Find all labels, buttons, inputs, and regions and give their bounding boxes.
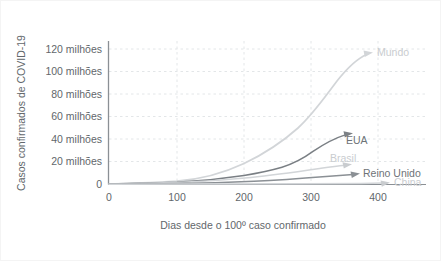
series-arrow-reino-unido	[351, 172, 361, 178]
series-label-mundo: Mundo	[377, 46, 409, 58]
series-arrow-china	[381, 180, 391, 186]
x-tick-label-300: 300	[302, 191, 320, 203]
y-tick-label-20: 20 milhões	[51, 155, 102, 167]
x-tick-label-0: 0	[106, 191, 112, 203]
y-tick-label-120: 120 milhões	[45, 43, 102, 55]
series-line-brasil	[109, 165, 345, 184]
series-label-china: China	[394, 176, 422, 188]
series-line-mundo	[109, 54, 367, 184]
series-label-eua: EUA	[346, 134, 368, 146]
x-tick-label-100: 100	[168, 191, 186, 203]
y-axis-title: Casos confirmados de COVID-19	[15, 35, 27, 191]
y-tick-label-0: 0	[96, 178, 102, 190]
grid-horizontal	[109, 49, 426, 162]
series-arrow-mundo	[364, 51, 374, 58]
series-label-brasil: Brasil	[330, 152, 356, 164]
x-axis-title: Dias desde o 100º caso confirmado	[160, 219, 326, 231]
x-tick-label-400: 400	[369, 191, 387, 203]
x-tick-label-200: 200	[235, 191, 253, 203]
y-tick-label-80: 80 milhões	[51, 88, 102, 100]
chart-figure: 120 milhões 100 milhões 80 milhões 60 mi…	[0, 0, 441, 261]
y-tick-label-40: 40 milhões	[51, 133, 102, 145]
series-line-eua	[109, 135, 346, 184]
y-tick-label-100: 100 milhões	[45, 65, 102, 77]
line-chart: 120 milhões 100 milhões 80 milhões 60 mi…	[1, 1, 441, 261]
y-tick-label-60: 60 milhões	[51, 110, 102, 122]
